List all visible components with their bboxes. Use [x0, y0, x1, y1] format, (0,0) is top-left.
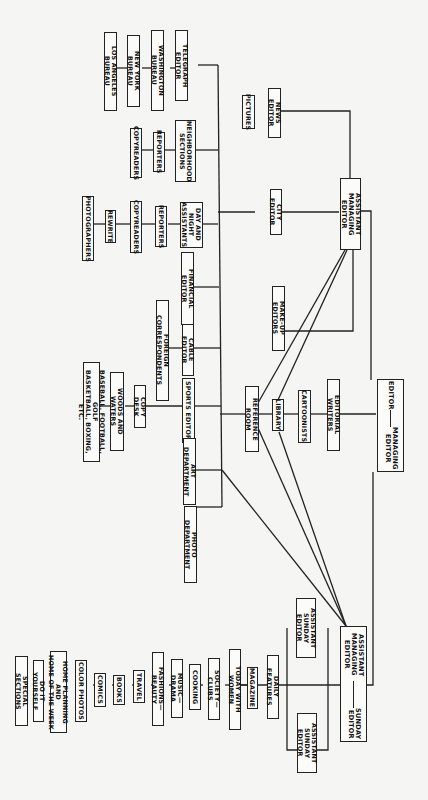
box-today-with-women: TODAY WITH WOMEN [229, 649, 241, 730]
box-cable-editor: CABLE EDITOR [182, 324, 194, 376]
box-books: BOOKS [113, 675, 125, 705]
box-city-editor: CITY EDITOR [270, 189, 282, 235]
box-foreign-correspondents: FOREIGN CORRESPONDENTS [156, 300, 169, 401]
box-sports-editor: SPORTS EDITOR [182, 378, 195, 443]
box-copyreaders-neighborhood: COPYREADERS [130, 128, 142, 178]
box-society-clubs: SOCIETY—CLUBS [208, 658, 220, 720]
box-cooking: COOKING [189, 664, 201, 710]
box-assistant-sunday-editor-2: ASSISTANT SUNDAY EDITOR [297, 713, 317, 773]
box-new-york-bureau: NEW YORK BUREAU [127, 35, 140, 107]
box-washington-bureau: WASHINGTON BUREAU [151, 30, 164, 111]
box-reference-room: REFERENCE ROOM [245, 386, 259, 452]
box-travel: TRAVEL [133, 670, 145, 703]
box-cartoonists: CARTOONISTS [298, 390, 311, 443]
box-fashions-beauty: FASHIONS—BEAUTY [152, 652, 164, 726]
box-special-sections: SPECIAL SECTIONS [15, 656, 28, 726]
ame-sunday-divider [353, 681, 354, 708]
box-reporters-neighborhood: REPORTERS [153, 132, 165, 172]
box-daily-features: DAILY FEATURES [267, 655, 279, 719]
box-library: LIBRARY [272, 399, 284, 431]
box-sports-list: BASEBALL, FOOTBALL, GOLF BASKETBALL, BOX… [83, 362, 100, 462]
box-color-photos: COLOR PHOTOS [75, 660, 87, 722]
box-copyreaders-city: COPYREADERS [130, 201, 142, 253]
editor-title: EDITOR [387, 381, 394, 410]
box-copy-desk: COPY DESK [134, 385, 146, 428]
managing-editor-title: MANAGING EDITOR [384, 427, 398, 470]
org-chart: EDITOR MANAGING EDITOR ASSISTANT MANAGIN… [0, 0, 428, 800]
box-assistant-managing-editor-sunday: ASSISTANT MANAGING EDITOR SUNDAY EDITOR [340, 626, 367, 742]
box-editor-managing-editor: EDITOR MANAGING EDITOR [377, 379, 404, 472]
sunday-editor-title: SUNDAY EDITOR [347, 708, 361, 740]
box-los-angeles-bureau: LOS ANGELES BUREAU [104, 32, 117, 111]
box-editorial-writers: EDITORIAL WRITERS [327, 379, 340, 451]
editor-divider [390, 410, 391, 428]
box-make-up-editors: MAKE-UP EDITORS [272, 286, 285, 351]
box-financial-editor: FINANCIAL EDITOR [181, 252, 194, 325]
box-art-department: ART DEPARTMENT [183, 438, 196, 505]
ame-sunday-title: ASSISTANT MANAGING EDITOR [343, 628, 364, 681]
box-reporters-city: REPORTERS [155, 206, 167, 247]
box-magazine: MAGAZINE [247, 667, 258, 709]
box-assistant-managing-editor: ASSISTANT MANAGING EDITOR [340, 178, 361, 250]
box-comics: COMICS [94, 673, 106, 707]
box-neighborhood-sections: NEIGHBORHOOD SECTIONS [175, 120, 196, 182]
box-telegraph-editor: TELEGRAPH EDITOR [175, 30, 188, 101]
box-day-night-assistants: DAY AND NIGHT ASSISTANTS [180, 202, 203, 248]
box-home-planning: HOME PLANNING AND HOME OF THE WEEK [50, 651, 67, 733]
box-assistant-sunday-editor-1: ASSISTANT SUNDAY EDITOR [296, 598, 316, 658]
box-woods-and-waters: WOODS AND WATERS [110, 372, 124, 451]
box-music-drama: MUSIC—DRAMA [171, 659, 183, 718]
box-photo-department: PHOTO DEPARTMENT [184, 506, 197, 583]
box-news-editor: NEWS EDITOR [268, 88, 281, 138]
box-rewrite: REWRITE [105, 210, 116, 243]
box-pictures: PICTURES [242, 95, 255, 129]
box-do-it-yourself: DO IT YOURSELF [33, 660, 44, 722]
box-photographers: PHOTOGRAPHERS [82, 196, 94, 261]
